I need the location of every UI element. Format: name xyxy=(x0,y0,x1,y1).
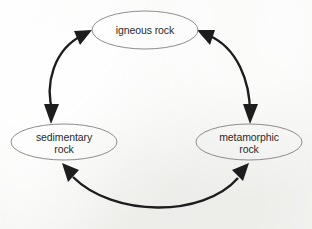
node-sedimentary-rock[interactable]: sedimentary rock xyxy=(11,124,117,160)
rock-cycle-diagram: igneous rock sedimentary rock metamorphi… xyxy=(0,0,312,229)
arrowhead-toward-igneous-right xyxy=(197,30,215,45)
node-igneous-rock[interactable]: igneous rock xyxy=(92,11,198,49)
connector-sedimentary-metamorphic xyxy=(62,163,249,208)
arrowhead-toward-sedimentary xyxy=(44,104,59,124)
arrow-shaft-igneous-metamorphic xyxy=(208,35,250,113)
arrow-shaft-igneous-sedimentary xyxy=(50,35,83,113)
arrow-shaft-sedimentary-metamorphic xyxy=(73,177,238,208)
diagram-canvas: igneous rock sedimentary rock metamorphi… xyxy=(0,0,312,229)
connector-igneous-metamorphic xyxy=(197,30,258,124)
node-metamorphic-rock-label-line1: metamorphic xyxy=(219,131,279,143)
node-sedimentary-rock-label-line1: sedimentary xyxy=(36,131,93,143)
arrowhead-toward-metamorphic-bottom xyxy=(232,163,249,181)
arrowhead-toward-metamorphic xyxy=(243,104,258,124)
node-sedimentary-rock-label-line2: rock xyxy=(54,143,74,155)
node-igneous-rock-label: igneous rock xyxy=(116,24,175,36)
connector-igneous-sedimentary xyxy=(44,30,92,124)
node-metamorphic-rock[interactable]: metamorphic rock xyxy=(196,124,302,160)
node-metamorphic-rock-label-line2: rock xyxy=(239,143,259,155)
